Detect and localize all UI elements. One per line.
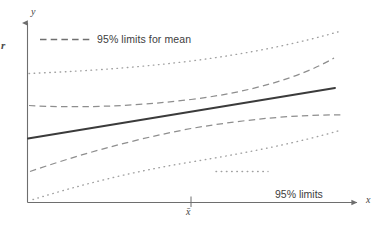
regression-confidence-bands-figure: r y x — [0, 0, 387, 225]
y-axis-label: y — [31, 7, 35, 17]
legend-label-mean-limits: 95% limits for mean — [97, 34, 191, 45]
x-mean-tick-label-text: x̄ — [186, 206, 190, 217]
confidence-limit-upper-curve — [29, 58, 334, 107]
x-axis-label: x — [366, 195, 370, 205]
legend-individual-line-1: 95% limits — [275, 188, 351, 200]
legend-label-individual-limits: 95% limits for individual predicted valu… — [275, 164, 351, 225]
fitted-regression-line — [28, 88, 335, 139]
x-mean-tick-label: x̄ — [186, 206, 190, 217]
